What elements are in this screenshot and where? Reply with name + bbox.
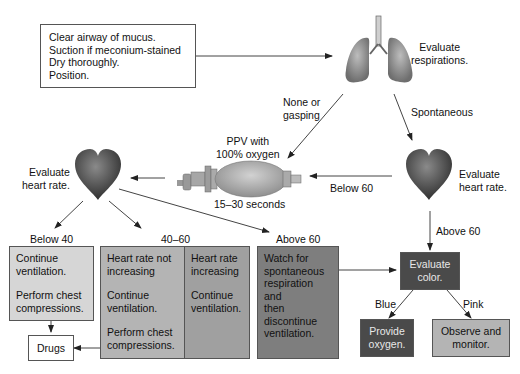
step-position: Position. (49, 69, 187, 82)
above60-line1: Watch for (264, 252, 332, 265)
above60-line5: discontinue (264, 315, 332, 328)
lungs-label-line1: Evaluate (411, 41, 468, 54)
bag-valve-mask-icon (175, 160, 303, 198)
above60-line4: then (264, 302, 332, 315)
below-40-label: Below 40 (30, 233, 73, 246)
left-heart-label-line1: Evaluate (22, 166, 70, 179)
not-increasing-line6: compressions. (107, 339, 178, 352)
below-60-label: Below 60 (330, 182, 373, 195)
spontaneous-label: Spontaneous (411, 106, 473, 119)
not-increasing-line1: Heart rate not (107, 252, 178, 265)
not-increasing-line5: Perform chest (107, 326, 178, 339)
heart-icon (73, 148, 123, 202)
increasing-line3: Continue (191, 289, 243, 302)
not-increasing-line4: ventilation. (107, 302, 178, 315)
below40-line1: Continue (16, 252, 87, 265)
evaluate-color-line1: Evaluate (403, 258, 457, 271)
increasing-line4: ventilation. (191, 302, 243, 315)
drugs-label: Drugs (31, 342, 71, 355)
below40-line4: compressions. (16, 302, 87, 315)
pink-label: Pink (463, 298, 483, 311)
below40-line2: ventilation. (16, 265, 87, 278)
evaluate-color-box: Evaluate color. (400, 252, 460, 290)
not-increasing-line3: Continue (107, 289, 178, 302)
above60-line2: spontaneous (264, 265, 332, 278)
evaluate-color-line2: color. (403, 271, 457, 284)
below40-line3: Perform chest (16, 289, 87, 302)
step-clear-airway: Clear airway of mucus. (49, 31, 187, 44)
hr-not-increasing-box: Heart rate not increasing Continue venti… (100, 246, 185, 359)
observe-monitor-box: Observe and monitor. (432, 319, 510, 357)
heart-icon (404, 148, 454, 202)
none-or-gasping-line1: None or (283, 96, 320, 109)
range-40-60-label: 40–60 (161, 233, 190, 246)
hr-increasing-box: Heart rate increasing Continue ventilati… (184, 246, 250, 359)
step-suction: Suction if meconium-stained (49, 44, 187, 57)
ppv-label: PPV with 100% oxygen (216, 135, 280, 160)
right-heart-label-line1: Evaluate (459, 168, 507, 181)
above-60-right-label: Above 60 (436, 225, 480, 238)
step-dry: Dry thoroughly. (49, 56, 187, 69)
none-or-gasping-line2: gasping (283, 109, 320, 122)
ppv-label-line1: PPV with (216, 135, 280, 148)
drugs-box: Drugs (28, 335, 74, 361)
left-heart-label-line2: heart rate. (22, 179, 70, 192)
lungs-label-line2: respirations. (411, 54, 468, 67)
blue-label: Blue (375, 298, 396, 311)
ppv-label-line2: 100% oxygen (216, 148, 280, 161)
increasing-line2: increasing (191, 265, 243, 278)
observe-monitor-line1: Observe and (435, 325, 507, 338)
provide-oxygen-line1: Provide (363, 325, 411, 338)
above60-line3: respiration and (264, 277, 332, 302)
not-increasing-line2: increasing (107, 265, 178, 278)
provide-oxygen-line2: oxygen. (363, 338, 411, 351)
provide-oxygen-box: Provide oxygen. (360, 319, 414, 357)
increasing-line1: Heart rate (191, 252, 243, 265)
right-heart-label-line2: heart rate. (459, 181, 507, 194)
above-60-left-label: Above 60 (276, 233, 320, 246)
none-or-gasping-label: None or gasping (283, 96, 320, 121)
above60-line6: ventilation. (264, 327, 332, 340)
ppv-duration-label: 15–30 seconds (214, 198, 285, 211)
observe-monitor-line2: monitor. (435, 338, 507, 351)
below-40-box: Continue ventilation. Perform chest comp… (9, 246, 94, 321)
left-heart-label: Evaluate heart rate. (22, 166, 70, 191)
above-60-box: Watch for spontaneous respiration and th… (257, 246, 339, 359)
initial-steps-box: Clear airway of mucus. Suction if meconi… (40, 24, 196, 88)
right-heart-label: Evaluate heart rate. (459, 168, 507, 193)
evaluate-respirations-label: Evaluate respirations. (411, 41, 468, 66)
